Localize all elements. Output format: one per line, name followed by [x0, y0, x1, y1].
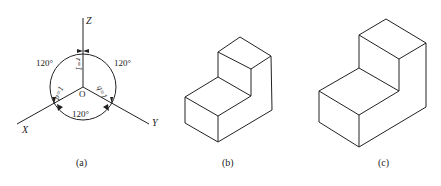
- figure-c-block: [319, 19, 426, 147]
- arrow-icon: [77, 49, 83, 53]
- angle-label-left: 120°: [36, 58, 54, 68]
- r-coefficient: r=1: [74, 58, 83, 71]
- caption-a: (a): [76, 157, 87, 169]
- arrow-icon: [103, 104, 109, 111]
- q-coefficient: q=1: [95, 84, 109, 100]
- caption-c: (c): [378, 157, 389, 169]
- x-axis-label: X: [21, 124, 29, 135]
- isometric-diagram: Z X Y O 120° 120° 120° p=1 q=1 r=1 (a) (…: [0, 0, 441, 186]
- origin-label: O: [79, 89, 86, 99]
- z-axis-label: Z: [86, 15, 92, 26]
- figure-b-block: [185, 37, 272, 142]
- angle-label-right: 120°: [114, 58, 132, 68]
- caption-b: (b): [222, 157, 234, 169]
- angle-label-bottom: 120°: [72, 109, 90, 119]
- arrow-icon: [57, 104, 63, 111]
- y-axis-label: Y: [152, 117, 159, 128]
- arrow-icon: [83, 49, 89, 53]
